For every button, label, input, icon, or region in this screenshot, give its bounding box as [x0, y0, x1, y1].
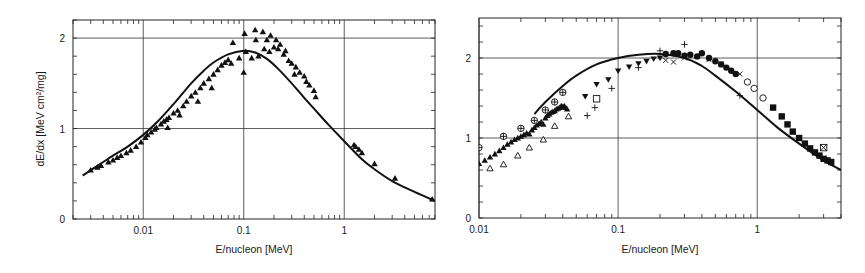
axis-ticks [73, 20, 435, 219]
data-point-triangle [174, 107, 180, 113]
data-point-triangle [260, 29, 266, 35]
data-point-triangle [209, 85, 215, 91]
left-panel-chart: 0.010.11012 [59, 20, 435, 236]
data-point-circle-plus [476, 144, 482, 150]
data-point-filled-square [790, 128, 796, 134]
x-tick-label: 1 [341, 225, 347, 236]
data-point-triangle [195, 98, 201, 104]
figure-canvas: 0.010.11012 0.010.11012 E/nucleon [MeV] … [0, 0, 865, 273]
data-point-plus [635, 64, 641, 70]
data-point-triangle [487, 154, 493, 160]
y-tick-label: 1 [59, 124, 65, 135]
left-y-axis-label: dE/dx [MeV cm²/mg] [34, 71, 46, 166]
theory-curve [83, 51, 435, 201]
data-point-triangle [476, 160, 482, 166]
data-point-plus [681, 41, 687, 47]
x-tick-label: 1 [754, 224, 760, 235]
data-point-triangle-down [650, 56, 656, 62]
data-point-triangle [225, 57, 231, 63]
x-tick-label: 0.01 [469, 224, 489, 235]
data-point-triangle [313, 94, 319, 100]
data-series [582, 56, 663, 100]
data-point-filled-circle [712, 58, 718, 64]
y-tick-label: 2 [465, 53, 471, 64]
x-tick-label: 0.1 [611, 224, 625, 235]
data-point-triangle [371, 161, 377, 167]
data-point-triangle [482, 157, 488, 163]
data-point-triangle [261, 46, 267, 52]
data-point-triangle [252, 27, 258, 33]
y-tick-label: 2 [59, 33, 65, 44]
data-point-triangle [230, 39, 236, 45]
data-point-triangle [303, 78, 309, 84]
data-series [487, 113, 572, 171]
data-point-cross [671, 59, 676, 64]
data-point-open-triangle [515, 152, 521, 158]
x-tick-label: 0.1 [237, 225, 251, 236]
data-point-open-circle [744, 79, 750, 85]
data-point-plus [592, 104, 598, 110]
y-tick-label: 1 [465, 133, 471, 144]
data-series [663, 50, 739, 77]
data-point-circle-plus [560, 89, 566, 95]
data-point-circle-plus [531, 117, 537, 123]
data-point-triangle [291, 71, 297, 77]
data-point-open-square [593, 96, 599, 102]
data-point-filled-square [784, 121, 790, 127]
data-point-open-triangle [526, 144, 532, 150]
data-point-filled-square [770, 104, 776, 110]
x-tick-label: 0.01 [134, 225, 154, 236]
data-point-circle-plus [500, 133, 506, 139]
data-point-open-triangle [487, 165, 493, 171]
data-point-cross [663, 58, 668, 63]
right-x-axis-label: E/nucleon [MeV] [621, 243, 698, 255]
data-point-triangle [392, 175, 398, 181]
data-point-triangle [183, 98, 189, 104]
data-point-plus [609, 85, 615, 91]
data-series [820, 144, 826, 150]
right-panel-chart: 0.010.11012 [465, 18, 841, 235]
data-point-triangle [311, 87, 317, 93]
data-point-triangle [282, 48, 288, 54]
left-x-axis-label: E/nucleon [MeV] [215, 243, 292, 255]
data-point-open-circle [760, 95, 766, 101]
data-point-circle-plus [542, 107, 548, 113]
data-series [744, 79, 766, 101]
data-point-open-triangle [551, 123, 557, 129]
data-point-triangle [241, 30, 247, 36]
data-point-filled-square [779, 113, 785, 119]
data-point-filled-circle [687, 52, 693, 58]
data-point-triangle [267, 32, 273, 38]
data-point-triangle-down [605, 77, 611, 83]
data-series [476, 103, 571, 166]
figure: 0.010.11012 0.010.11012 E/nucleon [MeV] … [0, 0, 865, 273]
data-point-triangle [249, 55, 255, 61]
data-point-triangle-down [626, 64, 632, 70]
data-point-triangle [127, 147, 133, 153]
plot-area [476, 41, 841, 171]
data-point-triangle [273, 37, 279, 43]
data-point-triangle-down [643, 59, 649, 65]
data-point-triangle-down [615, 68, 621, 74]
data-point-triangle [296, 69, 302, 75]
data-point-triangle [164, 124, 170, 130]
data-point-triangle-down [593, 82, 599, 88]
data-point-circle-plus [518, 125, 524, 131]
data-point-open-triangle [500, 161, 506, 167]
y-tick-label: 0 [59, 214, 65, 225]
theory-curve [534, 54, 841, 170]
gridlines [73, 20, 435, 219]
data-point-boxed-cross [820, 144, 826, 150]
data-point-filled-square [796, 135, 802, 141]
data-point-filled-circle [706, 55, 712, 61]
data-series [476, 89, 566, 151]
plot-area [83, 27, 436, 202]
data-series [593, 96, 599, 102]
data-point-filled-circle [732, 71, 738, 77]
data-point-circle-plus [551, 99, 557, 105]
data-point-triangle [271, 44, 277, 50]
data-point-triangle [236, 55, 242, 61]
data-point-plus [584, 112, 590, 118]
data-point-open-circle [751, 85, 757, 91]
y-tick-label: 0 [465, 213, 471, 224]
